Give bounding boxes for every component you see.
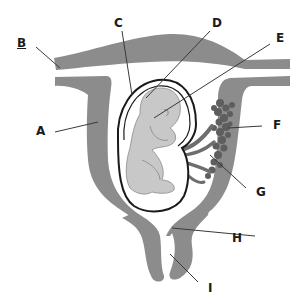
label-f: F	[273, 119, 281, 131]
label-g: G	[256, 186, 266, 198]
label-i: I	[208, 282, 212, 294]
label-e: E	[276, 32, 284, 44]
label-c: C	[114, 17, 123, 29]
abdominal-wall	[54, 34, 290, 70]
label-h: H	[232, 232, 242, 244]
label-d: D	[212, 17, 222, 29]
label-b: B	[17, 37, 26, 49]
label-a: A	[36, 125, 45, 137]
fetus-uterus-diagram	[0, 0, 301, 303]
cervix-left	[122, 212, 164, 282]
